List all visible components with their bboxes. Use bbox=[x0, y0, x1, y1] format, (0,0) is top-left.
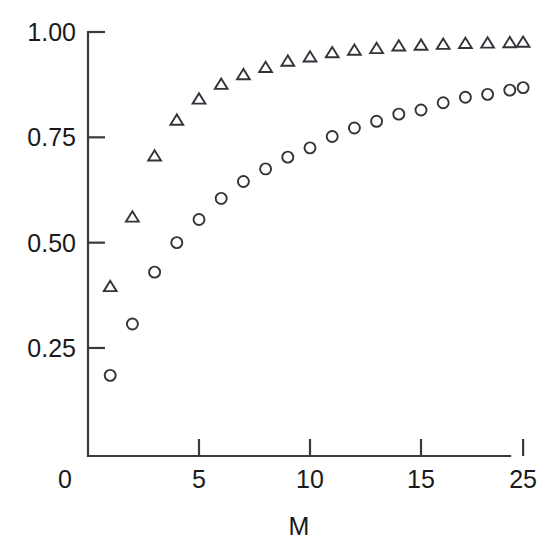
y-axis-tick-label: 0.75 bbox=[27, 123, 76, 151]
data-point-triangle bbox=[392, 40, 405, 50]
data-point-triangle bbox=[370, 43, 383, 53]
data-point-triangle bbox=[281, 55, 294, 65]
data-point-triangle bbox=[415, 39, 428, 49]
chart-figure: 1.000.750.500.25 05101525 M bbox=[0, 0, 556, 541]
x-axis-tick-label: 15 bbox=[407, 465, 435, 493]
x-axis-tick-label: 5 bbox=[192, 465, 206, 493]
series-triangles bbox=[104, 36, 530, 291]
data-point-circle bbox=[149, 267, 160, 278]
data-point-circle bbox=[282, 152, 293, 163]
scatter-plot: 1.000.750.500.25 05101525 M bbox=[0, 0, 556, 541]
data-point-triangle bbox=[503, 37, 516, 47]
y-axis-tick-label: 1.00 bbox=[27, 18, 76, 46]
data-point-triangle bbox=[348, 44, 361, 54]
data-point-circle bbox=[238, 176, 249, 187]
data-point-triangle bbox=[193, 93, 206, 103]
data-point-circle bbox=[327, 131, 338, 142]
data-point-triangle bbox=[215, 79, 228, 89]
data-point-triangle bbox=[304, 51, 317, 61]
data-point-circle bbox=[305, 142, 316, 153]
data-point-circle bbox=[127, 318, 138, 329]
data-point-triangle bbox=[259, 62, 272, 72]
data-point-triangle bbox=[170, 114, 183, 124]
data-point-triangle bbox=[148, 150, 161, 160]
data-point-triangle bbox=[437, 39, 450, 49]
data-point-triangle bbox=[326, 47, 339, 57]
data-point-circle bbox=[371, 116, 382, 127]
data-point-circle bbox=[416, 104, 427, 115]
y-axis: 1.000.750.500.25 bbox=[27, 18, 105, 456]
x-axis-tick-label: 10 bbox=[296, 465, 324, 493]
data-point-circle bbox=[194, 214, 205, 225]
data-point-circle bbox=[460, 92, 471, 103]
data-point-triangle bbox=[126, 211, 139, 221]
x-axis-title: M bbox=[289, 512, 310, 540]
series-circles bbox=[105, 82, 529, 381]
data-series-layer bbox=[104, 36, 530, 380]
data-point-circle bbox=[216, 193, 227, 204]
data-point-circle bbox=[105, 370, 116, 381]
data-point-circle bbox=[393, 109, 404, 120]
data-point-circle bbox=[438, 97, 449, 108]
data-point-triangle bbox=[237, 69, 250, 79]
y-axis-tick-labels: 1.000.750.500.25 bbox=[27, 18, 76, 362]
x-axis-ticks bbox=[199, 439, 523, 456]
data-point-triangle bbox=[459, 38, 472, 48]
data-point-circle bbox=[482, 89, 493, 100]
data-point-circle bbox=[504, 85, 515, 96]
data-point-circle bbox=[349, 123, 360, 134]
x-axis: 05101525 bbox=[58, 439, 537, 493]
y-axis-ticks bbox=[88, 32, 105, 348]
y-axis-tick-label: 0.50 bbox=[27, 229, 76, 257]
x-axis-tick-label: 0 bbox=[58, 465, 72, 493]
data-point-triangle bbox=[104, 281, 117, 291]
data-point-circle bbox=[260, 163, 271, 174]
x-axis-tick-label: 25 bbox=[509, 465, 537, 493]
data-point-triangle bbox=[517, 36, 530, 46]
data-point-triangle bbox=[481, 37, 494, 47]
x-axis-tick-labels: 05101525 bbox=[58, 465, 537, 493]
y-axis-tick-label: 0.25 bbox=[27, 334, 76, 362]
data-point-circle bbox=[518, 82, 529, 93]
data-point-circle bbox=[171, 237, 182, 248]
